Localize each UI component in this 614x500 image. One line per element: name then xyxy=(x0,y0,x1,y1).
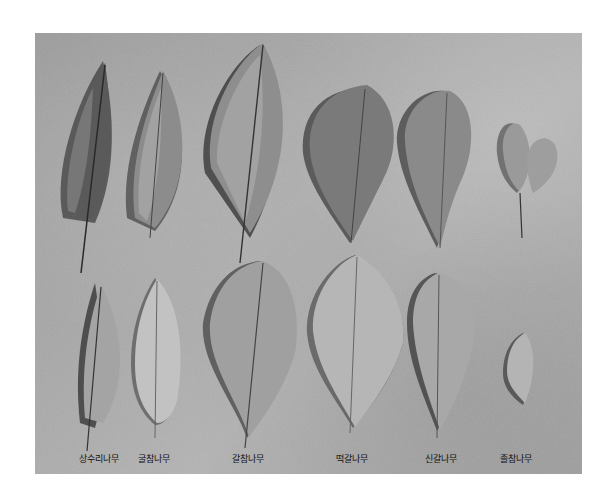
concrete-texture xyxy=(35,33,582,474)
leaves-illustration xyxy=(35,33,582,474)
label-galcham: 갈참나무 xyxy=(232,452,264,465)
label-sangsuri: 상수리나무 xyxy=(79,452,119,465)
label-gulcham: 굴참나무 xyxy=(138,452,170,465)
label-singal: 신갈나무 xyxy=(425,452,457,465)
label-jolcham: 졸참나무 xyxy=(500,452,532,465)
leaf-photograph: 상수리나무 굴참나무 갈참나무 떡갈나무 신갈나무 졸참나무 xyxy=(35,33,582,474)
label-ddeokgal: 떡갈나무 xyxy=(336,452,368,465)
